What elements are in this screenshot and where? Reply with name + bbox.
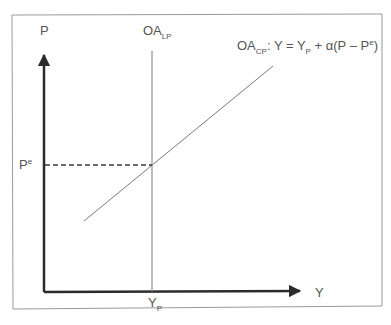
potential-output-label: YP [148, 296, 162, 309]
short-run-supply-line [84, 66, 273, 221]
x-axis [44, 291, 300, 292]
long-run-label-main: OA [143, 23, 162, 38]
equation-suffix: ) [374, 38, 378, 53]
equation-prefix: : Y = Y [267, 38, 306, 53]
y-axis-label: P [40, 24, 49, 37]
potential-output-sub: P [157, 304, 162, 313]
x-axis-label: Y [315, 286, 324, 299]
equation-sub: P [306, 47, 311, 56]
short-run-supply-equation: OACP: Y = YP + α(P – Pe) [237, 39, 378, 52]
equation-sup: e [369, 38, 373, 47]
diagram-frame [12, 14, 382, 309]
potential-output-main: Y [148, 295, 157, 310]
short-run-label-sub: CP [256, 47, 267, 56]
equation-mid: + α(P – P [311, 38, 369, 53]
long-run-supply-label: OALP [143, 24, 172, 37]
expected-price-main: P [19, 157, 28, 172]
short-run-label-main: OA [237, 38, 256, 53]
expected-price-sup: e [28, 157, 32, 166]
expected-price-label: Pe [19, 158, 32, 171]
long-run-label-sub: LP [162, 32, 172, 41]
